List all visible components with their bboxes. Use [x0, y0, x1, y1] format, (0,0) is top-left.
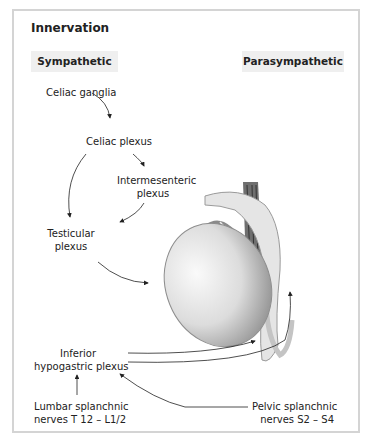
- pelvic-splanchnic-label: Pelvic splanchnicnerves S2 – S4: [252, 400, 334, 426]
- intermesenteric-plexus-label: Intermesentericplexus: [117, 174, 189, 200]
- testicular-plexus-label: Testicularplexus: [44, 227, 98, 253]
- testis-illustration: [0, 0, 367, 442]
- inferior-hypogastric-plexus-label: Inferiorhypogastric plexus: [34, 347, 122, 373]
- lumbar-splanchnic-label: Lumbar splanchnicnerves T 12 – L1/2: [34, 400, 122, 426]
- celiac-plexus-label: Celiac plexus: [86, 135, 152, 148]
- celiac-ganglia-label: Celiac ganglia: [46, 86, 116, 99]
